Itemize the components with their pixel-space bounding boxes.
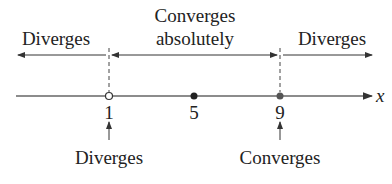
region-middle-label-line2: absolutely <box>140 29 250 49</box>
endpoint-9-note: Converges <box>225 148 335 168</box>
axis-label: x <box>376 86 384 106</box>
region-left-label: Diverges <box>8 29 104 49</box>
tick-1: 1 <box>99 103 119 123</box>
point-9 <box>277 93 284 100</box>
open-point-1 <box>106 93 113 100</box>
point-5 <box>191 93 198 100</box>
endpoint-1-note: Diverges <box>59 148 159 168</box>
tick-5: 5 <box>184 103 204 123</box>
tick-9: 9 <box>270 103 290 123</box>
region-right-label: Diverges <box>284 29 380 49</box>
region-middle-label-line1: Converges <box>140 6 250 26</box>
